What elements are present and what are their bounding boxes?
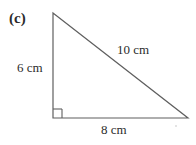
scan-artifact-speck xyxy=(175,125,177,127)
triangle-outline xyxy=(53,13,188,118)
part-label: (c) xyxy=(9,11,26,26)
horizontal-side-label: 8 cm xyxy=(101,123,127,136)
figure-container: (c) 6 cm 10 cm 8 cm xyxy=(0,0,196,145)
vertical-side-label: 6 cm xyxy=(17,61,43,74)
hypotenuse-label: 10 cm xyxy=(117,43,149,56)
